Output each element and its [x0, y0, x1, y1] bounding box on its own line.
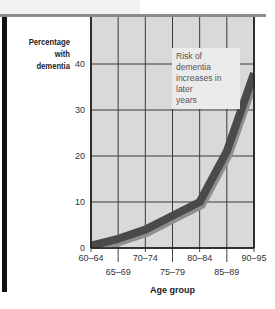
y-tick-label: 10	[75, 197, 85, 207]
y-tick-label: 30	[75, 105, 85, 115]
y-tick-label: 40	[75, 59, 85, 69]
x-tick-label: 80–84	[187, 253, 212, 263]
x-axis-title: Age group	[150, 285, 195, 295]
y-tick-label: 20	[75, 151, 85, 161]
x-tick-label: 65–69	[106, 267, 131, 277]
line-chart: 01020304060–6465–6970–7475–7980–8485–899…	[0, 0, 275, 309]
annotation-box: Risk of dementia increases in later year…	[172, 48, 240, 109]
x-tick-label: 70–74	[133, 253, 158, 263]
annotation-line2: increases in later	[176, 73, 236, 95]
x-tick-label: 85–89	[214, 267, 239, 277]
y-tick-label: 0	[80, 243, 85, 253]
annotation-line1: Risk of dementia	[176, 51, 236, 73]
x-tick-label: 90–95	[241, 253, 266, 263]
x-tick-label: 75–79	[160, 267, 185, 277]
x-tick-label: 60–64	[78, 253, 103, 263]
annotation-line3: years	[176, 95, 236, 106]
